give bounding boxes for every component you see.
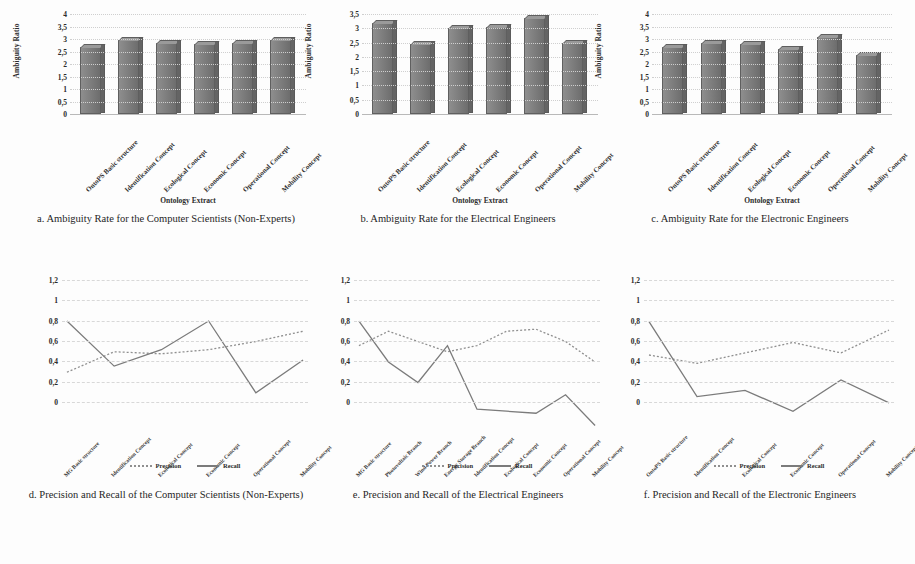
legend-d: Precision Recall xyxy=(62,462,308,469)
gridline xyxy=(652,39,892,40)
caption-a: a. Ambiguity Rate for the Computer Scien… xyxy=(24,212,308,226)
y-axis-tick: 1 xyxy=(645,85,649,94)
bar[interactable] xyxy=(778,49,799,114)
y-axis-tick: 3 xyxy=(645,35,649,44)
y-axis-tick: 0,2 xyxy=(631,377,640,386)
x-axis-tick-label: MG Basic structure xyxy=(63,440,101,478)
caption-f: f. Precision and Recall of the Electroni… xyxy=(604,488,896,502)
bar[interactable] xyxy=(194,44,215,114)
legend-item-precision-d: Precision xyxy=(130,462,182,469)
x-axis-tick-label: Identification Concept xyxy=(693,436,735,478)
gridline xyxy=(62,341,308,342)
x-axis-tick-label: Ecological Concept xyxy=(741,441,778,478)
precision-series-line[interactable] xyxy=(67,331,303,372)
chart-panel-d: 00,20,40,60,811,2 MG Basic structureIden… xyxy=(18,262,314,564)
bar-slot xyxy=(562,43,588,114)
recall-series-line[interactable] xyxy=(649,322,889,412)
gridline xyxy=(362,43,598,44)
caption-c: c. Ambiguity Rate for the Electronic Eng… xyxy=(606,212,894,226)
plot-area-e: 00,20,40,60,811,2 xyxy=(354,280,600,402)
bar-slot xyxy=(194,44,220,114)
y-axis-tick: 0 xyxy=(346,398,350,407)
gridline xyxy=(644,321,894,322)
legend-item-recall-e: Recall xyxy=(489,462,532,469)
y-axis-tick: 3,5 xyxy=(640,22,649,31)
gridline xyxy=(62,300,308,301)
y-axis-tick: 1,2 xyxy=(341,276,350,285)
y-axis-tick: 4 xyxy=(645,10,649,19)
bar[interactable] xyxy=(80,47,101,115)
bar-slot xyxy=(410,44,436,114)
gridline xyxy=(644,402,894,403)
chart-panel-c: Ambiguity Ratio 00,511,522,533,54 OntoPS… xyxy=(600,0,900,270)
gridline xyxy=(644,382,894,383)
bar-slot xyxy=(740,44,766,114)
bar[interactable] xyxy=(562,43,583,114)
bar-slot xyxy=(156,43,182,114)
chart-panel-e: 00,20,40,60,811,2 MG Basic structurePhot… xyxy=(310,262,606,564)
gridline xyxy=(362,100,598,101)
x-axis-tick-label: Mobility Concept xyxy=(866,151,909,194)
y-axis-tick: 2,5 xyxy=(58,47,67,56)
gridline xyxy=(362,85,598,86)
plot-area-c: 00,511,522,533,54 xyxy=(652,14,892,115)
line-chart-d: 00,20,40,60,811,2 MG Basic structureIden… xyxy=(18,262,314,492)
y-axis-tick: 0,4 xyxy=(341,357,350,366)
gridline xyxy=(70,102,306,103)
gridline xyxy=(644,280,894,281)
gridline xyxy=(70,14,306,15)
legend-label-precision: Precision xyxy=(740,462,766,469)
bar[interactable] xyxy=(156,43,177,114)
gridline xyxy=(62,321,308,322)
gridline xyxy=(362,14,598,15)
x-axis-tick-label: Operational Concept xyxy=(252,438,292,478)
x-axis-tick-label: Identification Concept xyxy=(110,436,152,478)
x-axis-tick-label: Economic Concept xyxy=(786,149,831,194)
y-axis-tick: 2,5 xyxy=(350,38,359,47)
caption-b: b. Ambiguity Rate for the Electrical Eng… xyxy=(316,212,600,226)
precision-series-line[interactable] xyxy=(649,330,889,363)
gridline xyxy=(362,57,598,58)
gridline xyxy=(62,402,308,403)
y-axis-tick: 3 xyxy=(355,24,359,33)
x-axis-labels-b: OntoPS Basic structureIdentification Con… xyxy=(362,116,598,194)
y-axis-tick: 0,8 xyxy=(341,316,350,325)
y-axis-tick: 0 xyxy=(636,398,640,407)
gridline xyxy=(62,361,308,362)
x-axis-tick-label: OntoPS Basic structure xyxy=(645,434,689,478)
precision-line-icon xyxy=(130,465,152,467)
chart-panel-a: Ambiguity Ratio 00,511,522,533,54 OntoPS… xyxy=(18,0,314,270)
y-axis-tick: 0,5 xyxy=(640,97,649,106)
y-axis-tick: 1 xyxy=(346,296,350,305)
legend-item-precision-f: Precision xyxy=(714,462,766,469)
gridline xyxy=(70,27,306,28)
y-axis-tick: 0,6 xyxy=(631,337,640,346)
bar[interactable] xyxy=(740,44,761,114)
line-chart-e: 00,20,40,60,811,2 MG Basic structurePhot… xyxy=(310,262,606,492)
plot-area-b: 00,511,522,533,5 xyxy=(362,14,598,115)
bar-slot xyxy=(701,43,727,114)
bar[interactable] xyxy=(410,44,431,114)
legend-label-recall: Recall xyxy=(807,462,824,469)
y-axis-tick: 1,2 xyxy=(631,276,640,285)
y-axis-tick: 2 xyxy=(355,52,359,61)
y-axis-tick: 0,8 xyxy=(49,316,58,325)
gridline xyxy=(354,341,600,342)
x-axis-title-a: Ontology Extract xyxy=(70,196,306,205)
y-axis-tick: 0,8 xyxy=(631,316,640,325)
plot-area-d: 00,20,40,60,811,2 xyxy=(62,280,308,402)
bar[interactable] xyxy=(662,47,683,115)
bar[interactable] xyxy=(232,43,253,114)
plot-area-f: 00,20,40,60,811,2 xyxy=(644,280,894,402)
bar-side-face xyxy=(877,52,881,113)
y-axis-tick: 0 xyxy=(645,110,649,119)
y-axis-tick: 0,4 xyxy=(49,357,58,366)
gridline xyxy=(362,28,598,29)
bar-slot xyxy=(662,47,688,115)
precision-series-line[interactable] xyxy=(359,329,595,362)
bar[interactable] xyxy=(701,43,722,114)
bar-side-face xyxy=(583,40,587,113)
x-axis-labels-a: OntoPS Basic structureIdentification Con… xyxy=(70,116,306,194)
bar-slot xyxy=(80,47,106,115)
gridline xyxy=(652,14,892,15)
